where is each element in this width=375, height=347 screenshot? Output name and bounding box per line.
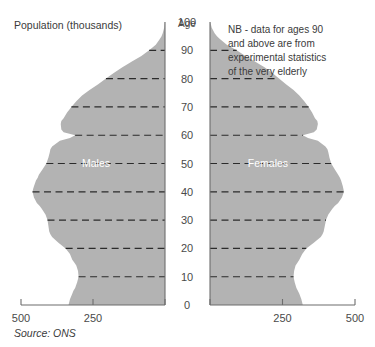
note-line-3: experimental statistics — [228, 52, 326, 63]
age-label-70: 70 — [181, 101, 193, 113]
females-series-label: Females — [248, 157, 288, 169]
age-label-30: 30 — [181, 214, 193, 226]
males-series-label: Males — [82, 157, 110, 169]
age-label-50: 50 — [181, 158, 193, 170]
age-label-100: 100 — [178, 16, 196, 28]
age-label-20: 20 — [181, 242, 193, 254]
x-label-left-500: 500 — [12, 312, 30, 324]
left-axis-title: Population (thousands) — [14, 19, 122, 31]
x-tick-labels: 500250250500 — [12, 312, 364, 324]
females-panel: Females — [210, 22, 355, 305]
pyramid-chart: Males Females Population (thousands) Age… — [0, 0, 375, 347]
age-label-80: 80 — [181, 73, 193, 85]
age-label-10: 10 — [181, 271, 193, 283]
age-label-0: 0 — [184, 299, 190, 311]
age-label-60: 60 — [181, 129, 193, 141]
age-label-40: 40 — [181, 186, 193, 198]
note-line-2: and above are from — [228, 38, 315, 49]
note-text: NB - data for ages 90and above are frome… — [228, 24, 326, 77]
x-label-right-250: 250 — [273, 312, 291, 324]
note-line-1: NB - data for ages 90 — [228, 24, 323, 35]
males-panel: Males — [21, 22, 165, 305]
population-pyramid-figure: Males Females Population (thousands) Age… — [0, 0, 375, 347]
note-line-4: of the very elderly — [228, 66, 307, 77]
source-label: Source: ONS — [14, 327, 76, 339]
age-label-90: 90 — [181, 44, 193, 56]
x-label-left-250: 250 — [84, 312, 102, 324]
x-label-right-500: 500 — [346, 312, 364, 324]
age-tick-labels: 0102030405060708090100 — [178, 16, 196, 311]
